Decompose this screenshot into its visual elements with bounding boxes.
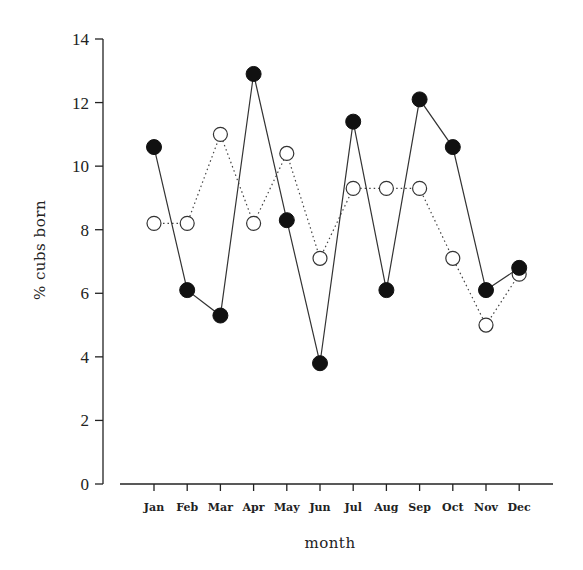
- y-tick-label: 14: [72, 30, 90, 49]
- data-point-filled: [213, 308, 228, 323]
- data-point-filled: [412, 92, 427, 107]
- y-tick-label: 4: [81, 348, 90, 367]
- data-point-open: [213, 127, 227, 141]
- y-tick-label: 8: [81, 221, 90, 240]
- y-axis: 02468101214: [72, 30, 103, 494]
- y-axis-title: % cubs born: [31, 200, 49, 300]
- data-point-filled: [147, 140, 162, 155]
- series-line-dotted: [154, 134, 519, 325]
- y-tick-label: 12: [72, 94, 89, 113]
- x-axis: JanFebMarAprMayJunJulAugSepOctNovDec: [120, 484, 553, 514]
- x-tick-label: Jun: [308, 501, 330, 514]
- x-tick-label: Jul: [344, 501, 362, 514]
- data-point-open: [313, 251, 327, 265]
- data-point-filled: [180, 283, 195, 298]
- y-tick-label: 0: [81, 475, 90, 494]
- x-tick-label: Feb: [176, 501, 198, 514]
- x-tick-label: Apr: [242, 501, 265, 514]
- data-point-open: [379, 181, 393, 195]
- data-point-filled: [445, 140, 460, 155]
- data-point-open: [180, 216, 194, 230]
- x-tick-label: Nov: [474, 501, 498, 514]
- x-tick-label: Mar: [208, 501, 233, 514]
- data-point-filled: [313, 356, 328, 371]
- y-tick-label: 10: [72, 157, 89, 176]
- data-point-open: [446, 251, 460, 265]
- data-point-open: [346, 181, 360, 195]
- x-tick-label: Jan: [143, 501, 164, 514]
- data-point-open: [147, 216, 161, 230]
- data-point-open: [413, 181, 427, 195]
- y-tick-label: 6: [81, 284, 90, 303]
- x-tick-label: Dec: [508, 501, 532, 514]
- data-point-filled: [379, 283, 394, 298]
- x-tick-label: Sep: [408, 501, 431, 514]
- x-tick-label: Aug: [373, 501, 399, 514]
- data-point-filled: [346, 114, 361, 129]
- x-axis-title: month: [304, 534, 355, 552]
- y-tick-label: 2: [81, 411, 90, 430]
- data-point-filled: [512, 260, 527, 275]
- data-point-filled: [279, 213, 294, 228]
- series-line-solid: [154, 74, 519, 363]
- data-point-open: [247, 216, 261, 230]
- data-point-filled: [246, 66, 261, 81]
- data-point-filled: [479, 283, 494, 298]
- x-tick-label: May: [274, 501, 300, 514]
- line-chart: 02468101214 JanFebMarAprMayJunJulAugSepO…: [0, 0, 583, 570]
- series-layer: [147, 66, 527, 370]
- data-point-open: [280, 146, 294, 160]
- x-tick-label: Oct: [442, 501, 464, 514]
- data-point-open: [479, 318, 493, 332]
